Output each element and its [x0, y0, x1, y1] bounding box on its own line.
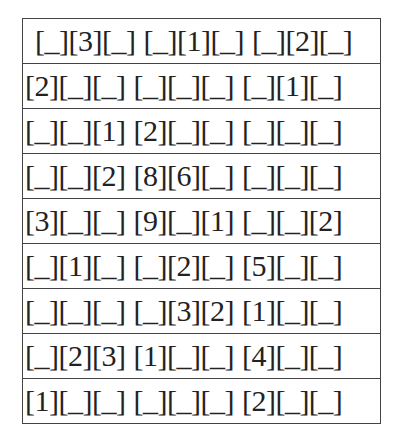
row-6-box-3: [5][_][_] [242, 251, 342, 281]
row-3-box-2: [2][_][_] [133, 116, 233, 146]
row-9-box-3: [2][_][_] [242, 386, 342, 416]
grid-row-7: [_][_][_] [_][3][2] [1][_][_] [23, 289, 380, 334]
row-7-box-1: [_][_][_] [25, 296, 125, 326]
grid-row-2: [2][_][_] [_][_][_] [_][1][_] [23, 64, 380, 109]
sudoku-grid: [_][3][_] [_][1][_] [_][2][_] [2][_][_] … [22, 18, 381, 424]
row-8-box-2: [1][_][_] [133, 341, 233, 371]
row-2-box-1: [2][_][_] [25, 71, 125, 101]
row-9-box-2: [_][_][_] [133, 386, 233, 416]
grid-row-5: [3][_][_] [9][_][1] [_][_][2] [23, 199, 380, 244]
row-5-box-3: [_][_][2] [242, 206, 342, 236]
row-1-box-3: [_][2][_] [252, 26, 352, 56]
row-3-box-3: [_][_][_] [242, 116, 342, 146]
grid-row-1: [_][3][_] [_][1][_] [_][2][_] [23, 19, 380, 64]
grid-row-4: [_][_][2] [8][6][_] [_][_][_] [23, 154, 380, 199]
row-1-box-2: [_][1][_] [143, 26, 243, 56]
grid-row-9: [1][_][_] [_][_][_] [2][_][_] [23, 379, 380, 423]
row-6-box-2: [_][2][_] [133, 251, 233, 281]
grid-row-8: [_][2][3] [1][_][_] [4][_][_] [23, 334, 380, 379]
row-1-box-1: [_][3][_] [35, 26, 135, 56]
row-9-box-1: [1][_][_] [25, 386, 125, 416]
row-3-box-1: [_][_][1] [25, 116, 125, 146]
row-7-box-3: [1][_][_] [242, 296, 342, 326]
row-5-box-2: [9][_][1] [133, 206, 233, 236]
row-4-box-3: [_][_][_] [242, 161, 342, 191]
row-8-box-1: [_][2][3] [25, 341, 125, 371]
row-2-box-3: [_][1][_] [242, 71, 342, 101]
row-5-box-1: [3][_][_] [25, 206, 125, 236]
row-8-box-3: [4][_][_] [242, 341, 342, 371]
row-4-box-1: [_][_][2] [25, 161, 125, 191]
row-4-box-2: [8][6][_] [133, 161, 233, 191]
grid-row-6: [_][1][_] [_][2][_] [5][_][_] [23, 244, 380, 289]
row-6-box-1: [_][1][_] [25, 251, 125, 281]
grid-row-3: [_][_][1] [2][_][_] [_][_][_] [23, 109, 380, 154]
row-7-box-2: [_][3][2] [133, 296, 233, 326]
row-2-box-2: [_][_][_] [133, 71, 233, 101]
